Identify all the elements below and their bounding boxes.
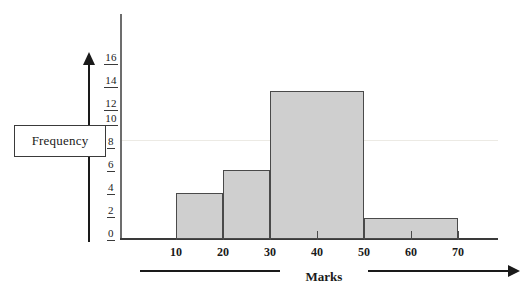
x-tick-label: 60 xyxy=(405,245,417,259)
y-tick-label: 16 xyxy=(104,52,118,65)
x-tick-20: 20 xyxy=(208,245,238,259)
x-tick-40: 40 xyxy=(302,245,332,259)
x-tick-mark-10 xyxy=(176,231,177,240)
x-tick-60: 60 xyxy=(396,245,426,259)
y-tick-label: 14 xyxy=(104,75,118,88)
y-tick-0: 0 xyxy=(100,228,122,241)
x-tick-30: 30 xyxy=(255,245,285,259)
x-tick-label: 10 xyxy=(170,245,182,259)
x-axis-label-text: Marks xyxy=(306,269,343,284)
y-tick-6: 6 xyxy=(100,159,122,172)
x-axis-label: Marks xyxy=(280,269,368,285)
x-tick-mark-40 xyxy=(317,231,318,240)
y-tick-12: 12 xyxy=(100,98,122,111)
y-axis-label-text: Frequency xyxy=(32,133,89,149)
x-tick-label: 40 xyxy=(311,245,323,259)
y-tick-14: 14 xyxy=(100,75,122,88)
y-tick-2: 2 xyxy=(100,205,122,218)
x-tick-label: 20 xyxy=(217,245,229,259)
y-tick-label: 8 xyxy=(107,136,115,149)
y-tick-label: 2 xyxy=(107,205,115,218)
y-tick-label: 12 xyxy=(104,98,118,111)
y-axis-label-box: Frequency xyxy=(14,125,106,157)
x-tick-mark-70 xyxy=(458,231,459,240)
x-tick-label: 30 xyxy=(264,245,276,259)
arrow-up-icon xyxy=(83,52,95,65)
x-tick-mark-60 xyxy=(411,231,412,240)
histogram-chart: 16 14 12 10 8 6 4 2 0 10 20 30 40 xyxy=(0,0,526,302)
x-tick-mark-50 xyxy=(364,231,365,240)
x-tick-70: 70 xyxy=(443,245,473,259)
bar-20-30 xyxy=(223,170,270,239)
x-tick-10: 10 xyxy=(161,245,191,259)
y-tick-4: 4 xyxy=(100,182,122,195)
y-tick-label: 0 xyxy=(107,228,115,241)
x-tick-label: 70 xyxy=(452,245,464,259)
y-tick-label: 10 xyxy=(104,113,118,126)
y-tick-label: 4 xyxy=(107,182,115,195)
x-tick-label: 50 xyxy=(358,245,370,259)
x-tick-mark-20 xyxy=(223,231,224,240)
y-tick-label: 6 xyxy=(107,159,115,172)
bar-10-20 xyxy=(176,193,223,239)
x-tick-mark-30 xyxy=(270,231,271,240)
x-tick-50: 50 xyxy=(349,245,379,259)
y-tick-16: 16 xyxy=(100,52,122,65)
bar-30-50 xyxy=(270,91,364,239)
arrow-right-icon xyxy=(508,265,520,277)
